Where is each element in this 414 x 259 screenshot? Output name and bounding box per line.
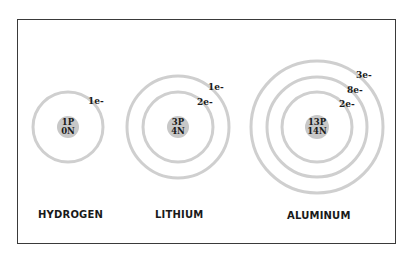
lithium-nucleus-label: 3P 4N [168, 118, 188, 136]
hydrogen-nucleus-label: 1P 0N [58, 118, 78, 136]
lithium-shell-1-label: 2e- [197, 97, 213, 107]
lithium-shell-2-label: 1e- [208, 82, 224, 92]
aluminum-shell-1-label: 2e- [339, 99, 355, 109]
aluminum-shell-3-label: 3e- [356, 70, 372, 80]
aluminum-label: ALUMINUM [287, 210, 351, 221]
aluminum-nucleus-label: 13P 14N [305, 118, 329, 136]
lithium-label: LITHIUM [155, 209, 203, 220]
lithium-neutrons: 4N [168, 127, 188, 136]
hydrogen-label: HYDROGEN [38, 209, 103, 220]
aluminum-shell-2-label: 8e- [347, 85, 363, 95]
aluminum-neutrons: 14N [305, 127, 329, 136]
hydrogen-shell-1-label: 1e- [88, 96, 104, 106]
hydrogen-neutrons: 0N [58, 127, 78, 136]
